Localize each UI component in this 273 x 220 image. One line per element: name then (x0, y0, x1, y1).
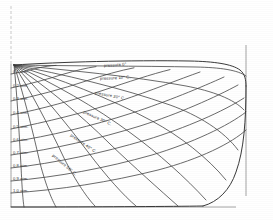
margin-label: 0.6 atm. (13, 137, 29, 142)
diagram-figure: 0.1 atm. 0.2 atm. 0.3 atm. 0.4 atm. 0.5 … (0, 0, 273, 220)
curve-labels-group: pressure 0° pressure 10° C. pressure 20°… (51, 61, 130, 176)
curve-label: pressure 10° C. (100, 74, 131, 81)
net-radial-curve (14, 65, 178, 206)
margin-label: 0.4 atm. (13, 110, 29, 115)
margin-label: 0.3 atm. (13, 96, 29, 101)
margin-labels-group: 0.1 atm. 0.2 atm. 0.3 atm. 0.4 atm. 0.5 … (13, 69, 29, 193)
margin-label: 0.1 atm. (13, 69, 29, 74)
margin-label: 0.8 atm. (13, 163, 29, 168)
diagram-canvas: 0.1 atm. 0.2 atm. 0.3 atm. 0.4 atm. 0.5 … (0, 0, 273, 220)
margin-label: 0.5 atm. (13, 124, 29, 129)
curve-label: pressure 0° (104, 61, 127, 68)
boundary-right (203, 86, 246, 206)
margin-label: 0.2 atm. (13, 83, 29, 88)
margin-label: 0.7 atm. (13, 150, 29, 155)
curve-label: pressure 30° C. (83, 109, 113, 126)
curve-label: pressure 50° C. (51, 153, 78, 177)
net-radials-group (14, 65, 246, 207)
curve-label: pressure 20° C. (95, 90, 126, 101)
net-arcs-group (11, 65, 246, 193)
margin-label: 1.0 atm. (13, 188, 29, 193)
margin-label: 0.9 atm. (13, 176, 29, 181)
